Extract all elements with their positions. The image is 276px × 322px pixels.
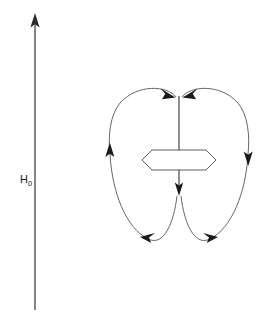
dipole-axis-line xyxy=(175,96,183,196)
external-field-arrow xyxy=(30,13,39,310)
figure-canvas: H0 xyxy=(0,0,276,322)
external-field-label: H0 xyxy=(20,173,32,188)
right-loop-bottom-arrowhead xyxy=(203,233,218,243)
external-field-label-subscript: 0 xyxy=(28,179,32,188)
external-field-label-main: H xyxy=(20,173,28,185)
left-loop-bottom-arrowhead xyxy=(140,233,155,243)
magnetic-dipole-figure: H0 xyxy=(0,0,276,322)
bar-magnet xyxy=(142,150,216,170)
